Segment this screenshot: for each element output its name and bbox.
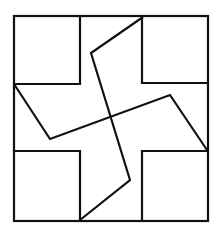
- vertical-zigzag-line: [80, 17, 143, 220]
- pinwheel-figure: [0, 0, 224, 232]
- figure-canvas: [0, 0, 224, 232]
- horizontal-zigzag-line: [14, 84, 207, 150]
- corner-square-bottom-left: [14, 151, 80, 221]
- pinwheel-lines: [14, 17, 207, 220]
- corner-square-top-right: [142, 16, 208, 83]
- corner-square-top-left: [14, 16, 80, 84]
- corner-square-bottom-right: [142, 151, 208, 221]
